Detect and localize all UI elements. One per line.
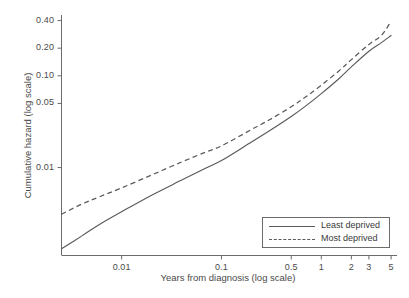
legend-entry-most-deprived: Most deprived — [263, 233, 391, 247]
legend-key-solid-line — [269, 226, 315, 229]
legend-label-most-deprived: Most deprived — [321, 233, 378, 243]
y-tick-label: 0.40 — [8, 15, 54, 25]
y-tick-marks — [58, 21, 62, 168]
legend-key-dashed-line — [269, 239, 315, 242]
x-tick-label: 0.01 — [97, 262, 147, 272]
chart-legend: Least deprived Most deprived — [262, 217, 390, 248]
y-axis-title: Cumulative hazard (log scale) — [22, 51, 33, 221]
legend-entry-least-deprived: Least deprived — [263, 220, 391, 234]
x-tick-marks — [122, 256, 391, 260]
chart-plot-area — [0, 0, 409, 298]
legend-label-least-deprived: Least deprived — [321, 220, 380, 230]
x-tick-label: 0.1 — [196, 262, 246, 272]
series-line-most-deprived — [62, 21, 392, 214]
x-axis-title: Years from diagnosis (log scale) — [61, 272, 395, 283]
chart-figure: 0.010.050.100.200.40 0.010.10.51235 Cumu… — [0, 0, 409, 298]
x-tick-label: 5 — [366, 262, 409, 272]
